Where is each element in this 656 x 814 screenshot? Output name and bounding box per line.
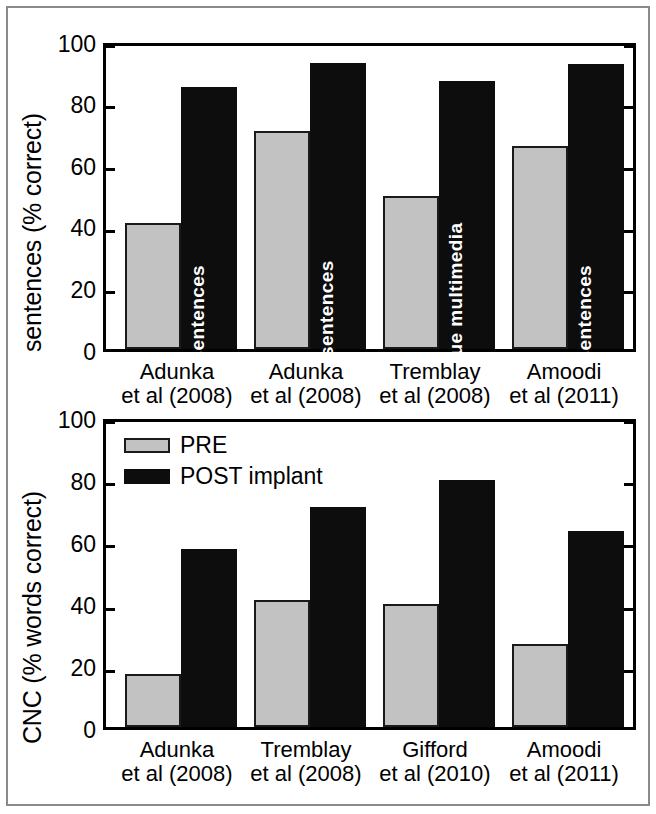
bar-pre (383, 196, 439, 349)
x-category-label: Tremblay et al (2008) (232, 738, 380, 786)
plot-area-cnc: PRE POST implant (103, 419, 636, 730)
bar-post: audiologique multimedia (439, 81, 495, 349)
bar-post (568, 531, 624, 727)
legend-item-pre: PRE (124, 432, 323, 459)
bar-post: CUNY sentences (310, 63, 366, 349)
bar-pre (512, 644, 568, 727)
y-tick-label: 60 (70, 531, 96, 558)
y-tick-label: 20 (70, 655, 96, 682)
panel-sentences: sentences (% correct) 0 20 40 60 80 100 (0, 0, 656, 410)
legend-item-post: POST implant (124, 463, 323, 490)
legend: PRE POST implant (124, 432, 323, 490)
x-category-label: Gifford et al (2010) (361, 738, 509, 786)
y-tick-label: 0 (83, 339, 96, 366)
y-tick-label: 0 (83, 717, 96, 744)
x-category-line1: Tremblay (232, 738, 380, 762)
y-tick-label: 40 (70, 215, 96, 242)
bar-pre (125, 223, 181, 349)
x-category-line1: Adunka (232, 360, 380, 384)
y-tick-label: 60 (70, 154, 96, 181)
legend-swatch-post-icon (124, 469, 170, 484)
legend-swatch-pre-icon (124, 438, 170, 453)
x-category-label: Tremblay et al (2008) (361, 360, 509, 408)
x-category-line2: et al (2008) (232, 762, 380, 786)
x-category-line1: Tremblay (361, 360, 509, 384)
x-category-label: Adunka et al (2008) (103, 738, 251, 786)
x-category-label: Amoodi et al (2011) (490, 738, 638, 786)
x-category-label: Adunka et al (2008) (232, 360, 380, 408)
bar-pre (125, 674, 181, 727)
x-category-line1: Adunka (103, 360, 251, 384)
bar-post (181, 549, 237, 727)
bar-pre (254, 131, 310, 349)
x-category-line2: et al (2008) (103, 762, 251, 786)
x-category-label: Amoodi et al (2011) (490, 360, 638, 408)
x-category-line1: Amoodi (490, 738, 638, 762)
bars-sentences: HINT sentences CUNY sentences audiologiq… (106, 46, 633, 349)
x-category-line1: Gifford (361, 738, 509, 762)
bar-post (439, 480, 495, 727)
y-tick-label: 100 (58, 31, 96, 58)
x-category-line1: Adunka (103, 738, 251, 762)
bar-pre (254, 600, 310, 727)
bar-pre (512, 146, 568, 349)
x-category-line2: et al (2010) (361, 762, 509, 786)
x-category-line1: Amoodi (490, 360, 638, 384)
legend-label-post: POST implant (180, 463, 323, 490)
y-tick-label: 100 (58, 407, 96, 434)
bar-pre (383, 604, 439, 727)
y-tick-label: 80 (70, 92, 96, 119)
y-tick-labels-sentences: 0 20 40 60 80 100 (40, 0, 96, 410)
x-category-label: Adunka et al (2008) (103, 360, 251, 408)
plot-area-sentences: HINT sentences CUNY sentences audiologiq… (103, 43, 636, 352)
bar-post: HINT sentences (181, 87, 237, 349)
panel-cnc: CNC (% words correct) 0 20 40 60 80 100 (0, 404, 656, 814)
y-tick-label: 80 (70, 469, 96, 496)
y-tick-label: 40 (70, 593, 96, 620)
x-category-line2: et al (2011) (490, 762, 638, 786)
figure-root: sentences (% correct) 0 20 40 60 80 100 (0, 0, 656, 814)
bar-post (310, 507, 366, 728)
legend-label-pre: PRE (180, 432, 227, 459)
bar-post: HINT sentences (568, 64, 624, 349)
y-tick-label: 20 (70, 277, 96, 304)
y-tick-labels-cnc: 0 20 40 60 80 100 (40, 404, 96, 814)
